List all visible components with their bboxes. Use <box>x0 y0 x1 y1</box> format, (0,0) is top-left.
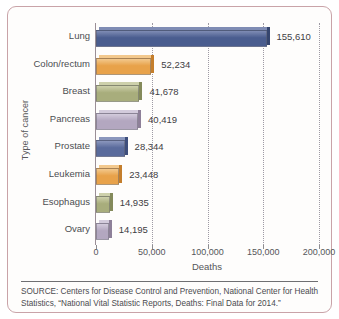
bar-top-face <box>99 110 141 113</box>
bar-side-face <box>267 27 270 45</box>
bar-chart-plot-area: Type of cancer 050,000100,000150,000200,… <box>8 7 333 260</box>
bar-row: Ovary14,195 <box>8 218 333 243</box>
bar-face <box>96 168 119 185</box>
figure-card: Type of cancer 050,000100,000150,000200,… <box>7 6 332 313</box>
bar-side-face <box>151 55 154 73</box>
bar-face <box>96 223 109 240</box>
bar-row: Prostate28,344 <box>8 135 333 160</box>
category-label: Lung <box>8 30 90 41</box>
bar-top-face <box>99 27 270 30</box>
bar[interactable] <box>96 55 154 76</box>
category-label: Prostate <box>8 140 90 151</box>
bar-side-face <box>119 165 122 183</box>
bar-top-face <box>99 82 142 85</box>
x-tick-label: 50,000 <box>138 247 166 257</box>
bar[interactable] <box>96 27 270 48</box>
bar-side-face <box>138 110 141 128</box>
bar-value-label: 40,419 <box>148 114 177 125</box>
bar-row: Esophagus14,935 <box>8 191 333 216</box>
bar[interactable] <box>96 220 112 241</box>
bar-value-label: 41,678 <box>149 86 178 97</box>
bar-value-label: 52,234 <box>161 59 190 70</box>
bar-face <box>96 30 267 47</box>
bar-side-face <box>110 193 113 211</box>
bar[interactable] <box>96 165 122 186</box>
bar-value-label: 28,344 <box>135 141 164 152</box>
bar-row: Leukemia23,448 <box>8 163 333 188</box>
bar-side-face <box>125 137 128 155</box>
source-divider <box>21 281 318 282</box>
bar-face <box>96 113 138 130</box>
bar-face <box>96 58 151 75</box>
category-label: Ovary <box>8 223 90 234</box>
category-label: Breast <box>8 85 90 96</box>
bar[interactable] <box>96 137 128 158</box>
bar-value-label: 23,448 <box>129 169 158 180</box>
bar[interactable] <box>96 193 113 214</box>
x-tick-label: 200,000 <box>303 247 336 257</box>
bar-face <box>96 140 125 157</box>
bar-face <box>96 85 139 102</box>
bar-value-label: 14,935 <box>120 197 149 208</box>
bar-face <box>96 196 110 213</box>
bar-top-face <box>99 55 154 58</box>
bar[interactable] <box>96 110 141 131</box>
bar-row: Colon/rectum52,234 <box>8 53 333 78</box>
category-label: Pancreas <box>8 113 90 124</box>
bar-value-label: 155,610 <box>277 31 311 42</box>
category-label: Colon/rectum <box>8 58 90 69</box>
category-label: Leukemia <box>8 168 90 179</box>
bar-row: Breast41,678 <box>8 80 333 105</box>
x-axis-title: Deaths <box>95 261 319 272</box>
x-tick-label: 150,000 <box>247 247 280 257</box>
source-note: SOURCE: Centers for Disease Control and … <box>21 286 321 309</box>
bar[interactable] <box>96 82 142 103</box>
bar-value-label: 14,195 <box>119 224 148 235</box>
bar-top-face <box>99 137 128 140</box>
bar-side-face <box>109 220 112 238</box>
category-label: Esophagus <box>8 196 90 207</box>
bar-row: Lung155,610 <box>8 25 333 50</box>
bar-side-face <box>139 82 142 100</box>
x-tick-label: 100,000 <box>191 247 224 257</box>
x-tick-label: 0 <box>93 247 98 257</box>
bar-row: Pancreas40,419 <box>8 108 333 133</box>
